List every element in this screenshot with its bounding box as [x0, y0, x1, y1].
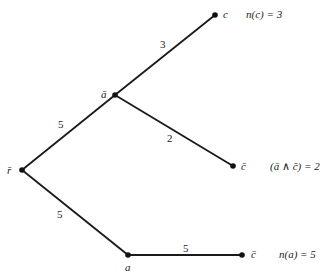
edge-abar-cbar — [115, 95, 233, 166]
edge-r-a — [22, 170, 128, 255]
edge-abar-c — [115, 15, 215, 95]
node-a — [125, 252, 131, 258]
weight-r-abar: 5 — [58, 119, 64, 130]
node-c — [212, 12, 218, 18]
node-c-bar-mid — [230, 163, 236, 169]
label-a-bar: ā — [101, 89, 107, 100]
annotation-n-a: n(a) = 5 — [279, 249, 316, 260]
weight-abar-c: 3 — [160, 39, 166, 50]
label-a: a — [125, 262, 131, 273]
edge-r-abar — [22, 95, 115, 170]
node-r-bar — [19, 167, 25, 173]
weight-r-a: 5 — [57, 209, 63, 220]
node-c-bar-bot — [239, 252, 245, 258]
annotation-n-c: n(c) = 3 — [246, 9, 282, 20]
label-c-bar-bot: c̄ — [251, 249, 256, 260]
weight-abar-cbar: 2 — [167, 133, 173, 144]
label-c-bar-mid: c̄ — [241, 161, 246, 172]
label-r-bar: r̄ — [7, 165, 11, 176]
weight-a-cbar: 5 — [183, 243, 189, 254]
node-a-bar — [112, 92, 118, 98]
label-c: c — [223, 9, 228, 20]
annotation-abar-and-cbar: (ā ∧ c̄) = 2 — [270, 161, 320, 172]
